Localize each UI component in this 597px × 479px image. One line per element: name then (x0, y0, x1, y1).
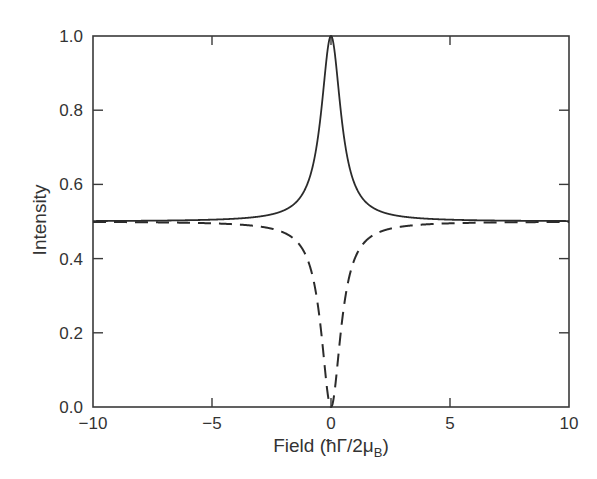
y-tick-label: 0.2 (59, 324, 83, 343)
x-tick-label: −5 (202, 414, 221, 433)
x-axis-label: Field (ħΓ/2μB) (273, 435, 389, 460)
y-axis-label: Intensity (29, 184, 50, 255)
axis-ticks: −10−505100.00.20.40.60.81.0 (59, 27, 578, 433)
y-tick-label: 0.4 (59, 250, 83, 269)
dip-curve (93, 222, 569, 407)
x-tick-label: 0 (326, 414, 335, 433)
peak-curve (93, 36, 569, 221)
y-tick-label: 0.8 (59, 101, 83, 120)
y-tick-label: 0.0 (59, 398, 83, 417)
x-tick-label: 5 (445, 414, 454, 433)
x-tick-label: 10 (560, 414, 579, 433)
data-series (93, 36, 569, 407)
y-tick-label: 1.0 (59, 27, 83, 46)
chart: −10−505100.00.20.40.60.81.0 Intensity Fi… (0, 0, 597, 479)
y-tick-label: 0.6 (59, 175, 83, 194)
